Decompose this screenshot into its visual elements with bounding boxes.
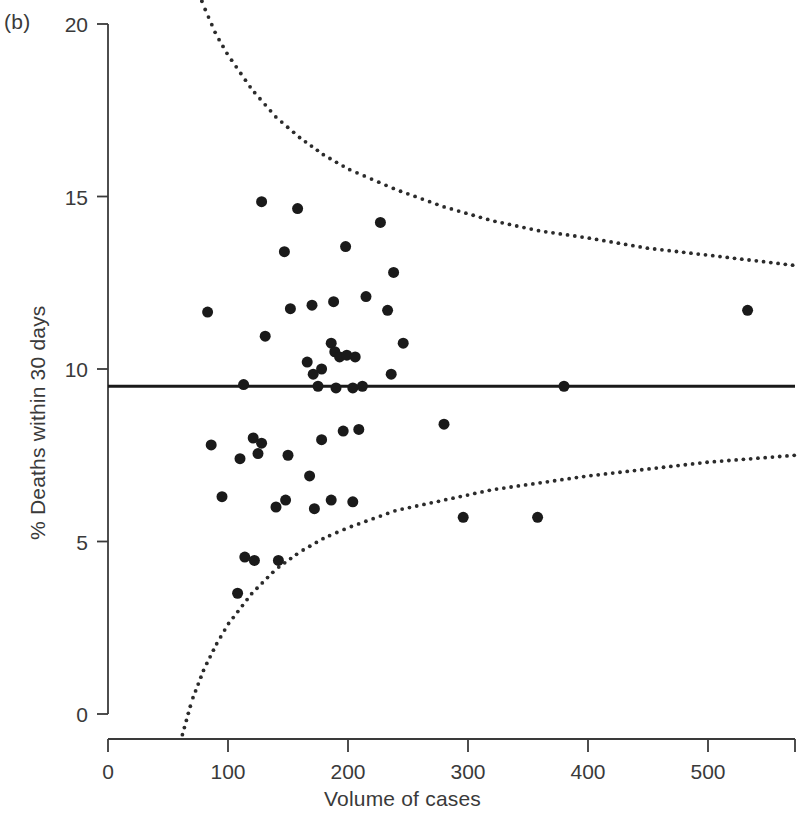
- data-point: [253, 448, 264, 459]
- data-point: [340, 241, 351, 252]
- data-point: [350, 351, 361, 362]
- data-point: [307, 300, 318, 311]
- data-point: [256, 196, 267, 207]
- x-tick-label: 400: [570, 760, 605, 783]
- data-point: [206, 439, 217, 450]
- y-tick-label: 15: [65, 186, 88, 209]
- y-tick-label: 20: [65, 13, 88, 36]
- data-point: [347, 382, 358, 393]
- lower-control-limit-curve: [181, 453, 797, 736]
- data-point: [232, 588, 243, 599]
- data-point: [316, 434, 327, 445]
- data-point: [285, 303, 296, 314]
- data-point: [357, 381, 368, 392]
- y-tick-label: 5: [76, 531, 88, 554]
- scatter-plot-canvas: 05101520 0100200300400500: [0, 0, 805, 834]
- data-point: [398, 338, 409, 349]
- x-axis: 0100200300400500: [102, 739, 795, 783]
- x-tick-label: 100: [210, 760, 245, 783]
- data-point: [279, 246, 290, 257]
- data-point: [386, 369, 397, 380]
- data-point: [361, 291, 372, 302]
- data-point: [302, 357, 313, 368]
- data-point: [742, 305, 753, 316]
- data-point: [217, 491, 228, 502]
- data-point: [308, 369, 319, 380]
- data-point: [388, 267, 399, 278]
- upper-control-limit-curve: [200, 0, 794, 267]
- y-tick-label: 0: [76, 703, 88, 726]
- data-points: [202, 196, 753, 599]
- data-point: [328, 296, 339, 307]
- data-point: [309, 503, 320, 514]
- y-tick-label: 10: [65, 358, 88, 381]
- data-point: [304, 470, 315, 481]
- x-tick-label: 500: [690, 760, 725, 783]
- data-point: [260, 331, 271, 342]
- data-point: [338, 426, 349, 437]
- data-point: [375, 217, 386, 228]
- data-point: [273, 555, 284, 566]
- data-point: [347, 496, 358, 507]
- data-point: [313, 381, 324, 392]
- data-point: [439, 419, 450, 430]
- data-point: [256, 438, 267, 449]
- data-point: [326, 495, 337, 506]
- data-point: [202, 307, 213, 318]
- data-point: [283, 450, 294, 461]
- x-tick-label: 0: [102, 760, 114, 783]
- data-point: [239, 552, 250, 563]
- funnel-plot-figure: (b) % Deaths within 30 days Volume of ca…: [0, 0, 805, 834]
- data-point: [559, 381, 570, 392]
- x-tick-label: 300: [450, 760, 485, 783]
- data-point: [353, 424, 364, 435]
- data-point: [458, 512, 469, 523]
- data-point: [331, 382, 342, 393]
- x-tick-label: 200: [330, 760, 365, 783]
- data-point: [271, 502, 282, 513]
- data-point: [382, 305, 393, 316]
- data-point: [532, 512, 543, 523]
- data-point: [292, 203, 303, 214]
- data-point: [235, 453, 246, 464]
- y-axis: 05101520: [65, 13, 108, 726]
- data-point: [249, 555, 260, 566]
- data-point: [238, 379, 249, 390]
- data-point: [280, 495, 291, 506]
